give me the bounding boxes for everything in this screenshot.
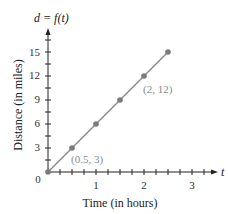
data-point [141, 73, 147, 79]
data-point [45, 169, 51, 175]
origin-label: 0 [35, 173, 41, 185]
annotation-label: (0.5, 3) [71, 153, 103, 166]
y-tick-label: 6 [35, 117, 41, 129]
x-tick-label: 2 [141, 179, 147, 191]
y-tick-label: 12 [29, 69, 40, 81]
annotation-label: (2, 12) [143, 83, 173, 96]
data-line [48, 52, 168, 172]
y-tick-label: 15 [29, 46, 41, 58]
y-axis-arrow-icon [46, 28, 51, 35]
x-tick-label: 3 [189, 179, 195, 191]
function-label: d = f(t) [34, 11, 69, 25]
data-point [117, 97, 123, 103]
x-tick-label: 1 [93, 179, 99, 191]
x-axis-arrow-icon [211, 170, 218, 175]
y-axis-title: Distance (in miles) [11, 59, 25, 150]
data-point [93, 121, 99, 127]
x-axis-symbol: t [221, 165, 225, 179]
x-axis-title: Time (in hours) [83, 196, 158, 210]
data-point [69, 145, 75, 151]
chart: d = f(t) t 3 6 9 12 15 [0, 0, 228, 214]
data-point [165, 49, 171, 55]
y-tick-label: 3 [35, 141, 41, 153]
y-tick-label: 9 [35, 93, 41, 105]
